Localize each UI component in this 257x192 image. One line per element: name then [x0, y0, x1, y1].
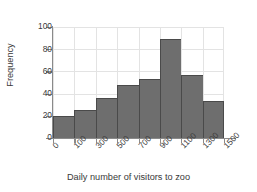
x-tick-label-0: 0 [51, 141, 60, 150]
x-tick-label-1500: 1500 [222, 131, 241, 150]
y-axis-title: Frequency [5, 25, 15, 105]
bar [181, 75, 202, 138]
bar [160, 39, 181, 138]
bar [74, 110, 95, 138]
plot-area [53, 27, 224, 138]
bar [117, 85, 138, 138]
bar [53, 116, 74, 138]
x-axis-title: Daily number of visitors to zoo [0, 172, 257, 182]
y-tick-label-20: 20 [8, 111, 52, 119]
bar [139, 79, 160, 138]
y-tick-label-0: 0 [8, 133, 52, 141]
histogram-chart: 020406080100 010030050070090011001300150… [0, 0, 257, 192]
y-axis-line [52, 26, 53, 139]
bar [96, 98, 117, 138]
